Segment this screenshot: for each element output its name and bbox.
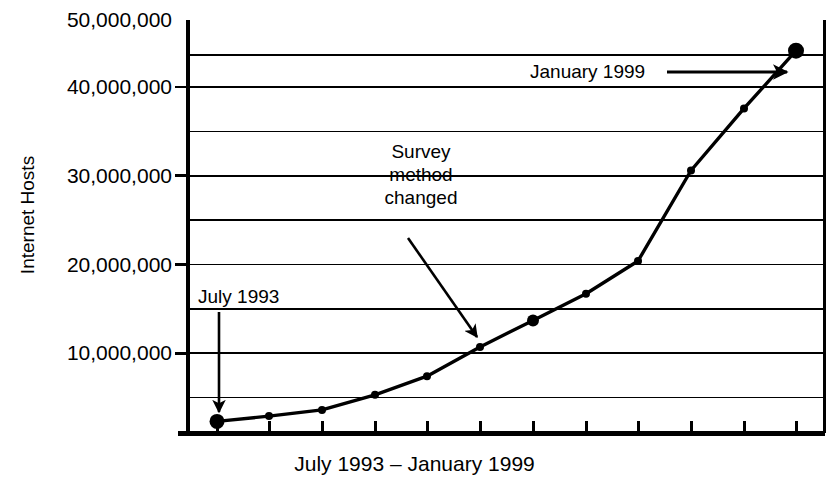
data-point [210, 414, 225, 429]
annotation-line-2: method [361, 163, 481, 186]
annotation-line-1: Survey [361, 140, 481, 163]
grid-lines [188, 55, 825, 398]
annotation-july-1993: July 1993 [198, 285, 279, 308]
survey-method-changed-arrow [408, 238, 477, 337]
annotation-january-1999: January 1999 [530, 60, 645, 83]
data-point [740, 104, 748, 112]
annotation-survey-method-changed: Survey method changed [361, 140, 481, 209]
data-point [371, 391, 379, 399]
data-point [423, 372, 431, 380]
data-points [210, 43, 805, 429]
data-point [582, 290, 590, 298]
chart-figure: Internet Hosts 50,000,000 40,000,000 30,… [0, 0, 829, 489]
data-point [687, 167, 695, 175]
data-line [217, 51, 796, 422]
x-axis-ticks [217, 421, 796, 433]
annotation-line-3: changed [361, 186, 481, 209]
data-point [634, 257, 642, 265]
data-point [527, 314, 539, 326]
data-point [265, 412, 273, 420]
plot-area [0, 0, 829, 489]
data-point [788, 43, 804, 59]
data-point [318, 406, 326, 414]
x-axis-title: July 1993 – January 1999 [0, 452, 829, 476]
data-point [476, 343, 484, 351]
